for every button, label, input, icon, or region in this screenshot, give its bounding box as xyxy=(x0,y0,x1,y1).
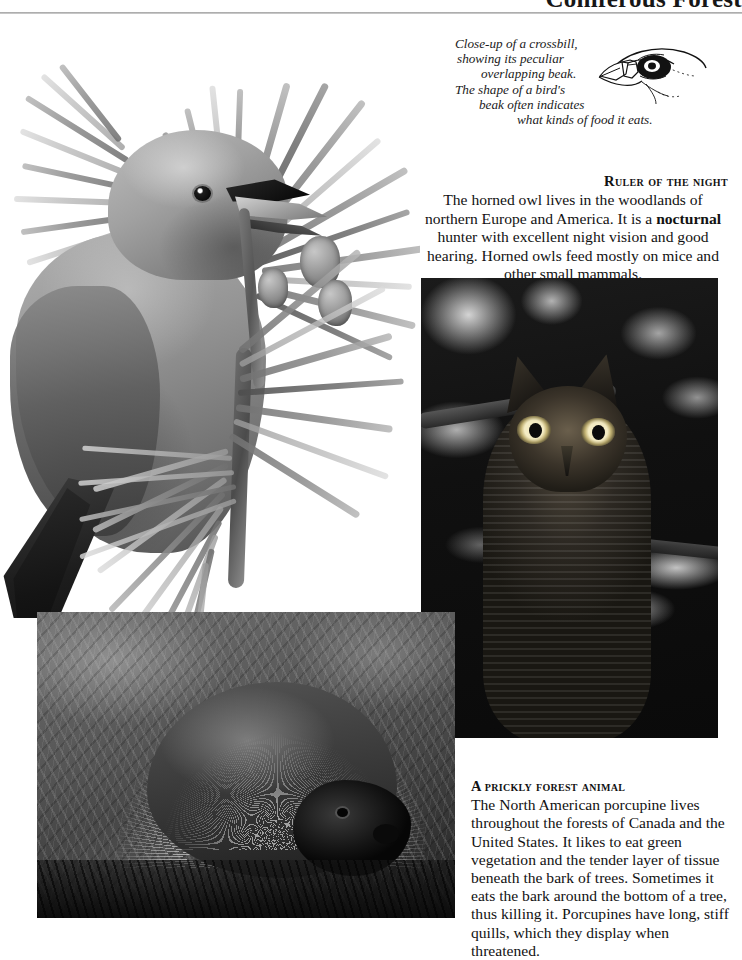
beak-drawing-svg xyxy=(598,38,710,110)
forest-floor xyxy=(37,860,455,918)
owl-text-block: Ruler of the night The horned owl lives … xyxy=(418,172,728,283)
owl-pupil-right xyxy=(592,425,605,440)
owl-heading: Ruler of the night xyxy=(418,172,728,190)
pine-cone xyxy=(258,268,288,308)
owl-text-part-2: hunter with excellent night vision and g… xyxy=(427,228,719,282)
porcupine-photo xyxy=(37,612,455,918)
crossbill-beak-diagram xyxy=(598,38,710,110)
crossbill-photo xyxy=(0,18,420,618)
crossbill-image-canvas xyxy=(0,18,420,618)
porcupine-body-text: The North American porcupine lives throu… xyxy=(471,796,739,960)
porcupine-eye xyxy=(337,808,348,817)
porcupine-text-block: A prickly forest animal The North Americ… xyxy=(471,777,739,960)
porcupine-nose xyxy=(373,824,399,844)
crossbill-eye xyxy=(194,186,211,201)
owl-bold-term: nocturnal xyxy=(656,210,721,227)
owl-body-text: The horned owl lives in the woodlands of… xyxy=(418,191,728,283)
owl-pupil-left xyxy=(529,423,542,438)
caption-line-6: what kinds of food it eats. xyxy=(455,112,630,127)
owl-photo xyxy=(421,278,718,738)
header-divider xyxy=(0,12,742,14)
porcupine-heading: A prickly forest animal xyxy=(471,777,739,795)
